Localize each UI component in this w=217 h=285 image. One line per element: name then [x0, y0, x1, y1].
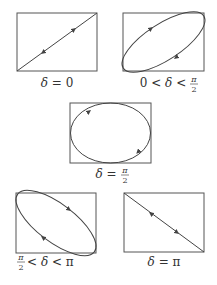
arrow-down-left-icon: [138, 150, 140, 152]
frac-denominator: 2: [122, 176, 127, 185]
label-delta-0-to-pi2: 0 < δ <: [140, 76, 186, 90]
panel-delta-0: δ = 0: [17, 13, 97, 90]
arrow-up-right-icon: [87, 112, 89, 114]
panel-delta-0-to-pi2: 0 < δ < π 2: [113, 1, 213, 94]
arrow-up-right-icon: [149, 29, 151, 31]
frac-denominator: 2: [18, 263, 23, 272]
arrow-down-left-icon: [43, 51, 45, 53]
trajectory-line: [124, 193, 204, 252]
frac-numerator: π: [190, 75, 197, 84]
arrow-down-left-icon: [176, 56, 178, 58]
trajectory-circle: [71, 103, 151, 163]
label-delta-pi: δ = π: [148, 255, 181, 269]
arrow-up-right-icon: [72, 30, 74, 32]
panel-delta-pi2-to-pi: π 2 < δ < π: [6, 179, 106, 272]
frac-numerator: π: [121, 166, 128, 175]
frac-denominator: 2: [191, 85, 196, 94]
lissajous-diagram: δ = 0 0 < δ < π 2 δ = π 2 π 2 < δ < π: [0, 0, 217, 285]
panel-delta-pi2: δ = π 2: [70, 103, 151, 185]
label-delta-pi2-to-pi: < δ < π: [27, 255, 74, 269]
frac-numerator: π: [17, 253, 24, 262]
trajectory-line: [17, 13, 97, 71]
arrow-down-right-icon: [175, 231, 177, 233]
label-delta-pi2: δ =: [95, 167, 116, 181]
panel-delta-pi: δ = π: [124, 193, 204, 269]
label-delta-0: δ = 0: [41, 76, 74, 90]
